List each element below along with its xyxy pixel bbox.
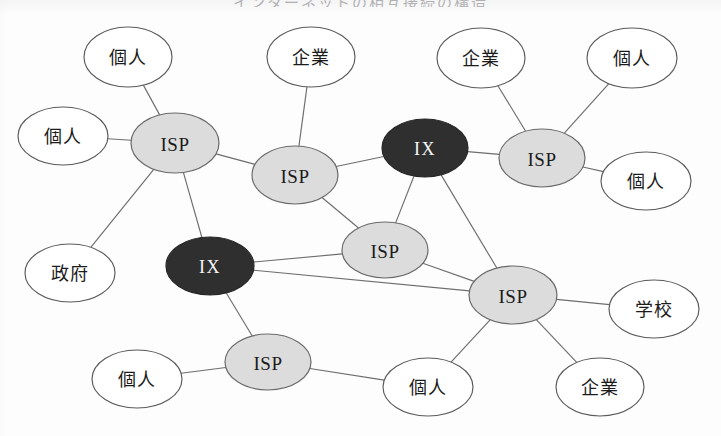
edge-ix-left--isp-bottom — [226, 293, 252, 336]
edge-kigyou-top-mid--isp-upper-mid — [299, 87, 307, 146]
node-kigyou-bottom-right[interactable]: 企業 — [556, 358, 644, 416]
edge-kojin-top-left--isp-top-left — [143, 85, 159, 115]
node-layer: 個人個人政府企業企業個人個人学校企業個人個人ISPISPISPISPISPISP… — [18, 27, 699, 416]
edge-isp-top-left--ix-left — [183, 172, 202, 237]
edge-isp-center--isp-right — [423, 263, 474, 281]
edge-isp-right--kigyou-bottom-right — [536, 320, 576, 363]
node-isp-bottom[interactable]: ISP — [225, 334, 311, 390]
edge-isp-bottom--kojin-bottom-left — [181, 367, 226, 373]
node-kigyou-top-mid[interactable]: 企業 — [267, 27, 355, 87]
node-label-kojin-top-far-right: 個人 — [613, 49, 651, 69]
node-label-isp-bottom: ISP — [254, 353, 283, 374]
node-gakkou-right[interactable]: 学校 — [609, 280, 699, 338]
edge-kojin-far-left--isp-top-left — [108, 139, 131, 140]
node-kigyou-top-right[interactable]: 企業 — [437, 28, 525, 88]
node-label-ix-left: IX — [199, 257, 221, 277]
node-isp-top-right[interactable]: ISP — [499, 129, 585, 187]
edge-ix-top--isp-top-right — [468, 152, 500, 155]
node-label-isp-top-right: ISP — [528, 149, 557, 170]
node-label-kojin-bottom-left: 個人 — [118, 370, 156, 390]
edge-kigyou-top-right--isp-top-right — [498, 86, 526, 131]
edge-kojin-top-far-right--isp-top-right — [564, 84, 609, 133]
edge-ix-left--isp-center — [254, 254, 343, 262]
node-isp-center[interactable]: ISP — [342, 222, 428, 278]
node-label-isp-center: ISP — [371, 241, 400, 262]
node-isp-right[interactable]: ISP — [469, 266, 557, 324]
node-label-isp-right: ISP — [499, 286, 528, 307]
edge-ix-top--isp-right — [441, 175, 497, 268]
network-topology-diagram: 個人個人政府企業企業個人個人学校企業個人個人ISPISPISPISPISPISP… — [0, 0, 721, 436]
node-label-isp-top-left: ISP — [161, 134, 190, 155]
edge-isp-right--kojin-bottom-mid — [451, 320, 490, 362]
node-kojin-far-left[interactable]: 個人 — [18, 107, 108, 165]
node-label-kojin-top-left: 個人 — [109, 48, 147, 68]
edge-kojin-right--isp-top-right — [583, 167, 604, 172]
node-label-kigyou-top-right: 企業 — [462, 49, 500, 69]
edge-isp-top-left--isp-upper-mid — [216, 154, 255, 164]
edge-ix-top--isp-center — [396, 176, 414, 223]
node-label-ix-top: IX — [414, 139, 436, 159]
node-isp-upper-mid[interactable]: ISP — [252, 146, 338, 204]
edge-isp-bottom--kojin-bottom-mid — [310, 369, 384, 381]
edge-isp-upper-mid--isp-center — [322, 198, 358, 228]
edge-isp-upper-mid--ix-top — [336, 157, 384, 167]
node-label-kojin-right: 個人 — [627, 172, 665, 192]
node-label-gakkou-right: 学校 — [635, 300, 673, 320]
node-ix-left[interactable]: IX — [166, 237, 254, 295]
node-kojin-right[interactable]: 個人 — [601, 152, 691, 210]
node-kojin-top-left[interactable]: 個人 — [84, 27, 172, 87]
node-kojin-top-far-right[interactable]: 個人 — [587, 28, 677, 88]
node-label-seifu-left: 政府 — [51, 264, 89, 284]
node-label-isp-upper-mid: ISP — [281, 166, 310, 187]
edge-seifu-left--isp-top-left — [91, 169, 154, 247]
node-seifu-left[interactable]: 政府 — [25, 244, 115, 302]
node-kojin-bottom-mid[interactable]: 個人 — [383, 358, 473, 416]
node-label-kojin-bottom-mid: 個人 — [409, 378, 447, 398]
node-label-kojin-far-left: 個人 — [44, 127, 82, 147]
node-kojin-bottom-left[interactable]: 個人 — [92, 350, 182, 408]
node-ix-top[interactable]: IX — [382, 119, 468, 177]
node-label-kigyou-bottom-right: 企業 — [581, 378, 619, 398]
node-label-kigyou-top-mid: 企業 — [292, 48, 330, 68]
figure-canvas: インターネットの相互接続の構造 個人個人政府企業企業個人個人学校企業個人個人IS… — [0, 0, 721, 436]
node-isp-top-left[interactable]: ISP — [131, 113, 219, 173]
edge-isp-right--gakkou-right — [557, 299, 610, 304]
